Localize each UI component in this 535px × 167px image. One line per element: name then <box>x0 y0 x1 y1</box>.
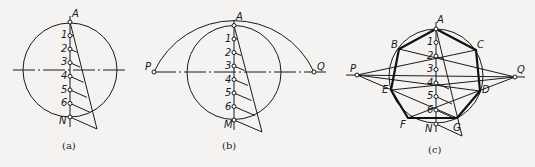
point-A-c <box>434 27 438 31</box>
point-Q-b <box>312 70 316 74</box>
point-A-b <box>232 24 236 28</box>
point-5-b <box>232 91 236 95</box>
label-6-b: 6 <box>225 101 231 112</box>
label-E-c: E <box>382 84 389 95</box>
caption-c: (c) <box>428 144 442 155</box>
point-Q-c <box>513 75 517 79</box>
point-A-a <box>68 20 72 24</box>
point-N-c <box>434 122 438 126</box>
point-2-c <box>434 54 438 58</box>
label-A-a: A <box>71 8 79 19</box>
caption-b: (b) <box>222 140 236 151</box>
point-N-a <box>68 115 72 119</box>
point-5-c <box>434 95 438 99</box>
label-2-c: 2 <box>427 50 433 61</box>
heptagon-construction-diagram: A 1 2 3 4 5 6 N (a) A <box>0 0 535 167</box>
point-2-b <box>232 51 236 55</box>
label-5-b: 5 <box>225 87 231 98</box>
label-Q-b: Q <box>317 61 325 72</box>
subfigure-c: A 1 2 3 4 5 6 N P Q B C D E F G (c) <box>346 14 525 155</box>
label-A-c: A <box>436 14 444 25</box>
caption-a: (a) <box>62 140 76 151</box>
point-P-b <box>152 70 156 74</box>
point-4-b <box>232 78 236 82</box>
label-F-c: F <box>400 119 406 130</box>
point-1-c <box>434 41 438 45</box>
label-G-c: G <box>453 122 461 133</box>
slant-line-b <box>234 26 262 133</box>
label-1-a: 1 <box>61 29 67 40</box>
point-2-a <box>68 47 72 51</box>
parallels-a <box>70 36 90 113</box>
point-4-c <box>434 81 438 85</box>
label-6-a: 6 <box>61 97 67 108</box>
label-1-b: 1 <box>225 33 231 44</box>
point-3-c <box>434 68 438 72</box>
parallels-b <box>234 39 255 116</box>
point-3-b <box>232 64 236 68</box>
label-5-a: 5 <box>61 84 67 95</box>
closing-line-b <box>234 120 262 132</box>
point-6-c <box>434 108 438 112</box>
label-Q-c: Q <box>517 64 525 75</box>
label-4-a: 4 <box>61 70 67 81</box>
point-3-a <box>68 61 72 65</box>
subfigure-b: A 1 2 3 4 5 6 M P Q (b) <box>145 11 326 151</box>
subfigure-a: A 1 2 3 4 5 6 N (a) <box>13 8 127 151</box>
label-1-c: 1 <box>427 36 433 47</box>
label-P-c: P <box>350 63 357 74</box>
label-3-a: 3 <box>61 56 67 67</box>
label-C-c: C <box>477 39 484 50</box>
label-3-b: 3 <box>225 60 231 71</box>
label-P-b: P <box>145 61 152 72</box>
slant-line-a <box>70 22 97 129</box>
label-3-c: 3 <box>427 63 433 74</box>
closing-line-a <box>70 117 97 129</box>
label-B-c: B <box>391 39 398 50</box>
label-4-b: 4 <box>225 74 231 85</box>
label-5-c: 5 <box>427 90 433 101</box>
label-M-b: M <box>224 119 233 130</box>
label-A-b: A <box>235 11 243 22</box>
label-N-c: N <box>425 123 433 134</box>
point-1-b <box>232 37 236 41</box>
point-1-a <box>68 34 72 38</box>
label-6-c: 6 <box>427 104 433 115</box>
point-6-a <box>68 101 72 105</box>
point-5-a <box>68 88 72 92</box>
label-N-a: N <box>59 115 67 126</box>
label-2-a: 2 <box>61 43 67 54</box>
point-6-b <box>232 105 236 109</box>
label-4-c: 4 <box>427 77 433 88</box>
label-2-b: 2 <box>225 47 231 58</box>
label-D-c: D <box>482 84 490 95</box>
point-4-a <box>68 74 72 78</box>
